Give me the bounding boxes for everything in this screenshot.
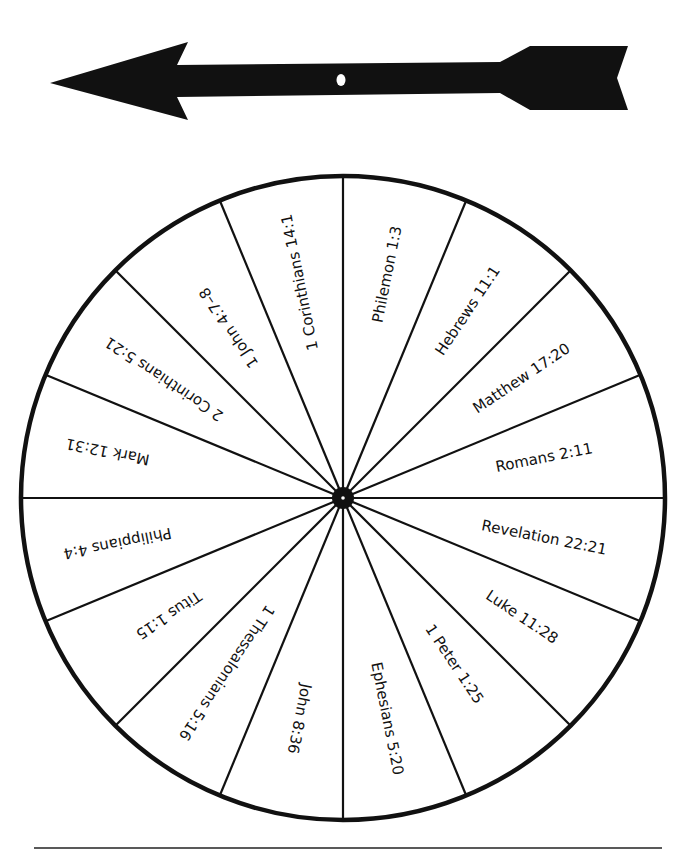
wheel-hub-hole	[341, 496, 345, 500]
spinner-worksheet: Philemon 1:3Hebrews 11:1Matthew 17:20Rom…	[0, 0, 698, 855]
spinner-wheel[interactable]: Philemon 1:3Hebrews 11:1Matthew 17:20Rom…	[21, 176, 665, 820]
arrow-pivot-hole	[337, 74, 346, 86]
spinner-arrow[interactable]	[50, 42, 628, 120]
